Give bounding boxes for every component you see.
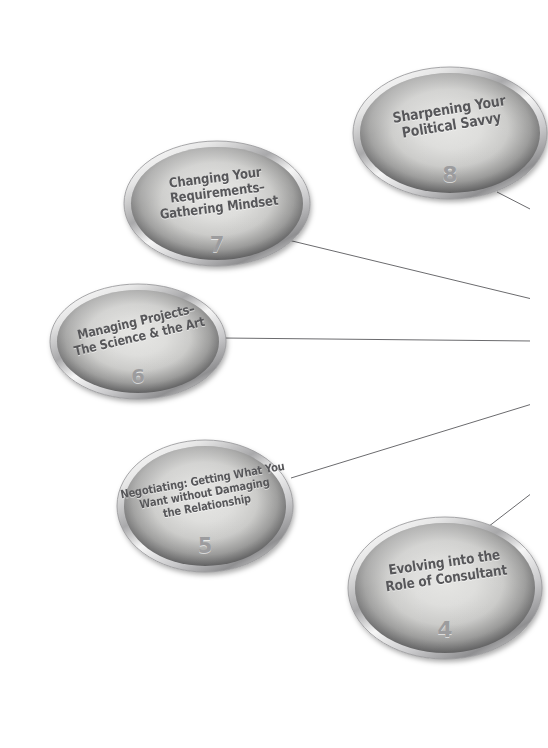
- node-number: 5: [116, 534, 294, 558]
- node-number: 8: [352, 162, 548, 187]
- chapter-node[interactable]: Sharpening YourPolitical Savvy8: [352, 66, 548, 200]
- chapter-node[interactable]: Evolving into theRole of Consultant4: [347, 516, 543, 660]
- connector-line: [288, 240, 530, 299]
- chapter-node[interactable]: Managing Projects–The Science & the Art6: [49, 283, 227, 400]
- node-number: 6: [49, 364, 227, 388]
- chapter-node[interactable]: Negotiating: Getting What YouWant withou…: [116, 439, 294, 573]
- node-number: 4: [347, 617, 543, 642]
- node-number: 7: [123, 233, 311, 257]
- connector-line: [291, 404, 530, 478]
- connector-line: [222, 338, 530, 341]
- chapter-node[interactable]: Changing YourRequirements–Gathering Mind…: [123, 140, 311, 267]
